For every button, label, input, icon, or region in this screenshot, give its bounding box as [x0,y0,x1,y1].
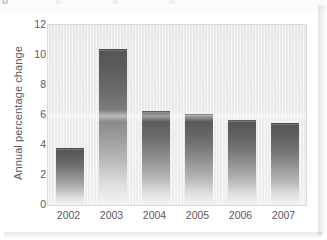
ghost-tick-1: 6 [56,0,60,6]
y-axis-title: Annual percentage change [12,23,28,203]
bar-2007 [271,123,299,205]
y-axis-tick-12: 12 [28,19,46,30]
card-shadow-bottom [4,232,322,240]
y-axis-tick-6: 6 [28,109,46,120]
bar-top-highlight [228,121,256,122]
bar-top-highlight [185,115,213,116]
bar-top-highlight [99,50,127,51]
card-shadow-right [318,5,327,235]
y-axis-tick-labels: 024681012 [28,13,46,235]
bar-2005 [185,114,213,206]
cropped-header-strip: b 6 8 0 [0,0,327,13]
bar-top-highlight [56,149,84,150]
y-axis-tick-0: 0 [28,199,46,210]
figure-page: b 6 8 0 Annual percentage change 0246810… [0,0,327,240]
bar-2002 [56,148,84,205]
bar-top-highlight [142,112,170,113]
y-axis-tick-8: 8 [28,79,46,90]
x-axis-tick-2004: 2004 [132,209,178,221]
bar-chart-figure: Annual percentage change 024681012 20022… [0,13,320,235]
plot-area [47,24,307,206]
panel-label-b: b [2,0,8,6]
bar-2003 [99,49,127,205]
ghost-tick-2: 8 [113,0,117,6]
y-axis-tick-2: 2 [28,169,46,180]
x-axis-tick-2007: 2007 [261,209,307,221]
x-axis-tick-2003: 2003 [89,209,135,221]
x-axis-tick-2002: 2002 [46,209,92,221]
y-axis-tick-4: 4 [28,139,46,150]
bar-2004 [142,111,170,206]
bar-2006 [228,120,256,205]
bar-top-highlight [271,124,299,125]
x-axis-tick-2006: 2006 [218,209,264,221]
ghost-tick-3: 0 [170,0,174,6]
x-axis-tick-labels: 200220032004200520062007 [47,209,305,225]
y-axis-tick-10: 10 [28,49,46,60]
x-axis-tick-2005: 2005 [175,209,221,221]
